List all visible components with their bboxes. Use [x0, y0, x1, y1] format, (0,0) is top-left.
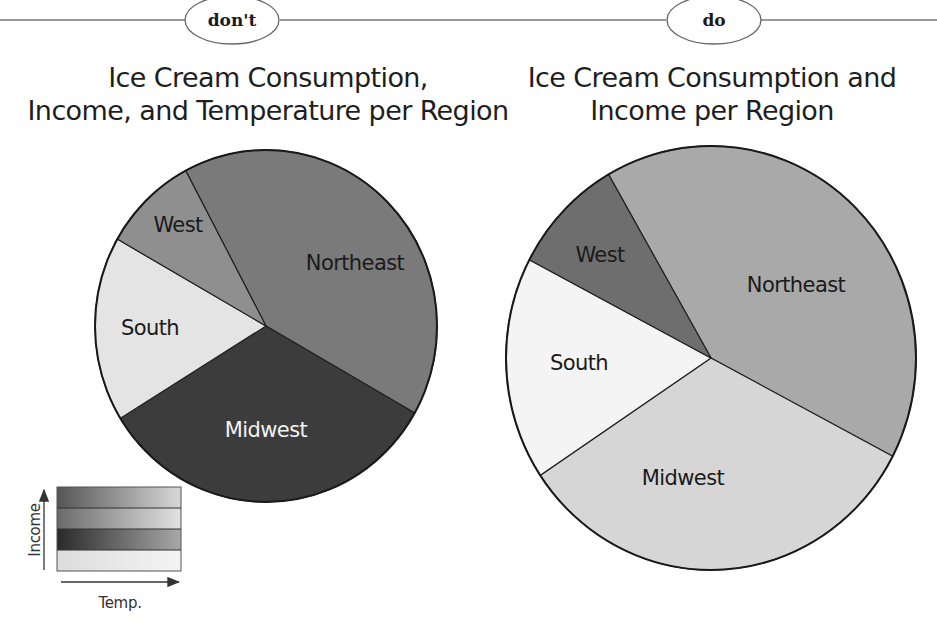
right-pie-chart: NortheastMidwestSouthWest [506, 146, 916, 570]
slice-label-midwest: Midwest [642, 466, 725, 490]
dont-tag: don't [185, 0, 279, 44]
slice-label-south: South [550, 351, 608, 375]
legend-row-1 [57, 487, 181, 508]
slice-label-northeast: Northeast [747, 273, 846, 297]
slice-label-south: South [121, 316, 179, 340]
left-chart-title-line2: Income, and Temperature per Region [28, 95, 509, 126]
income-temp-legend: Income Temp. [26, 487, 181, 612]
legend-x-label: Temp. [97, 594, 141, 612]
left-chart-title-line1: Ice Cream Consumption, [108, 62, 428, 93]
legend-y-label: Income [26, 503, 44, 556]
right-chart-title-line2: Income per Region [590, 95, 834, 126]
slice-label-midwest: Midwest [225, 418, 308, 442]
legend-row-3 [57, 529, 181, 550]
slice-label-west: West [575, 243, 625, 267]
slice-label-northeast: Northeast [306, 251, 405, 275]
left-pie-chart: NortheastMidwestSouthWest [95, 150, 437, 502]
dont-tag-label: don't [208, 10, 257, 30]
right-chart-title-line1: Ice Cream Consumption and [528, 62, 897, 93]
figure-canvas: don't do Ice Cream Consumption, Income, … [0, 0, 937, 636]
legend-row-2 [57, 508, 181, 529]
do-tag: do [667, 0, 761, 44]
do-tag-label: do [702, 10, 725, 30]
legend-row-4 [57, 550, 181, 571]
slice-label-west: West [153, 213, 203, 237]
